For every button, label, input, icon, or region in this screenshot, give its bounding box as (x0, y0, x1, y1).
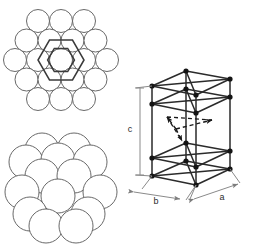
vertex (193, 110, 198, 115)
sphere (15, 68, 38, 91)
vertex (193, 164, 198, 169)
label-a: a (219, 192, 224, 202)
vertex (149, 101, 154, 106)
hcp-structure-figure: c b a (0, 0, 253, 247)
sphere (4, 49, 27, 72)
vertex (227, 148, 232, 153)
sphere (84, 29, 107, 52)
vertex (183, 140, 188, 145)
sphere (29, 209, 63, 243)
figure-canvas: c b a (0, 0, 253, 247)
sphere-row-1 (27, 10, 96, 33)
sphere (59, 209, 93, 243)
vertex (183, 68, 188, 73)
vertex (193, 92, 198, 97)
sphere (73, 10, 96, 33)
vertex (227, 76, 232, 81)
sphere (50, 10, 73, 33)
sphere-row-5 (27, 88, 96, 111)
sphere-row-3 (4, 49, 119, 72)
vertex (183, 158, 188, 163)
sphere (84, 68, 107, 91)
label-b: b (153, 196, 158, 206)
sphere (27, 10, 50, 33)
sphere (50, 88, 73, 111)
sphere (96, 49, 119, 72)
sphere (27, 88, 50, 111)
vertex (227, 94, 232, 99)
sphere (15, 29, 38, 52)
vertex (149, 155, 154, 160)
label-c: c (128, 124, 133, 134)
sphere (73, 88, 96, 111)
vertex (183, 86, 188, 91)
